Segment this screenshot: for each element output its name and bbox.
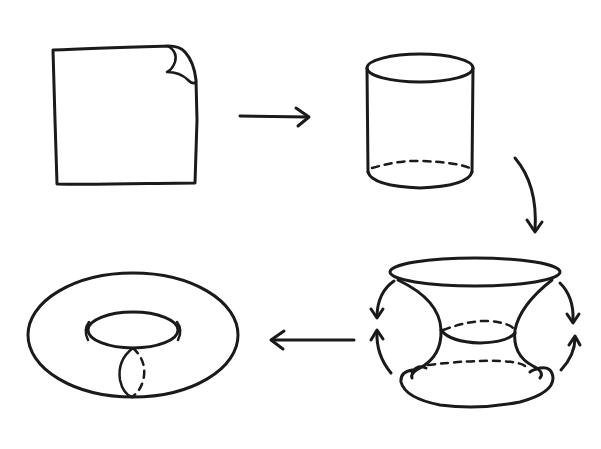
- bent-bottom-back: [428, 361, 525, 366]
- left-arrow-down: [377, 281, 394, 315]
- torus-meridian-back: [132, 348, 144, 397]
- square-outline: [53, 46, 197, 184]
- bent-waist-back: [443, 321, 515, 330]
- stage-square: Flat square sheet with a curled corner: [53, 46, 197, 184]
- torus-inner-hole: [88, 312, 178, 348]
- bent-bottom-rim: [401, 368, 553, 407]
- arrow-bent-to-torus: [271, 331, 354, 349]
- bent-top-rim: [390, 258, 560, 286]
- arrow-square-to-cylinder: [240, 108, 309, 126]
- stage-torus: Ends glued to form a torus: [28, 273, 238, 397]
- cylinder-top-rim: [367, 54, 473, 82]
- stage-cylinder: Sheet rolled into a cylinder: [367, 54, 473, 188]
- torus-outer-rim: [28, 273, 238, 397]
- cylinder-bottom-back: [372, 161, 470, 168]
- arrow-cylinder-to-bent: [515, 158, 542, 232]
- cylinder-bottom-front: [368, 172, 472, 188]
- torus-construction-diagram: Flat square sheet with a curled corner S…: [0, 0, 601, 449]
- torus-meridian-front: [120, 348, 133, 397]
- stage-bent-cylinder: Cylinder ends bent toward each other: [371, 258, 580, 407]
- cylinder-right-side: [472, 68, 473, 172]
- right-arrow-up: [561, 338, 575, 370]
- bent-waist-front: [441, 330, 515, 343]
- cylinder-left-side: [367, 68, 368, 172]
